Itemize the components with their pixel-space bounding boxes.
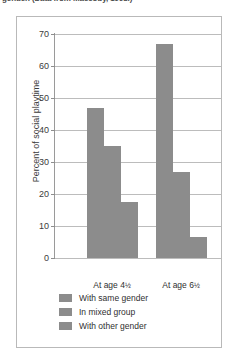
plot-area: 706050403020100At age 4½At age 6½ [55,34,221,258]
y-axis-tick-mark [51,130,55,131]
y-axis-tick-label: 50 [9,93,49,103]
legend-swatch [59,294,72,302]
y-axis-tick-mark [51,194,55,195]
gridline [55,34,221,35]
figure-caption-sliver: gender. (Data from Maccoby, 1998.) [0,0,238,5]
bar-at-age-4--series-3 [121,202,138,258]
chart-plot-region: Percent of social playtime 7060504030201… [17,17,223,275]
y-axis-tick-label: 10 [9,221,49,231]
bar-at-age-4--series-1 [87,108,104,258]
y-axis-tick-mark [51,98,55,99]
legend-label: In mixed group [79,307,135,317]
y-axis-tick-label: 40 [9,125,49,135]
legend-swatch [59,322,72,330]
gridline [55,66,221,67]
y-axis-tick-mark [51,34,55,35]
bar-at-age-6--series-2 [173,172,190,258]
legend-item: With other gender [59,319,209,333]
y-axis-tick-mark [51,226,55,227]
gridline [55,162,221,163]
legend-swatch [59,308,72,316]
bar-at-age-6--series-1 [156,44,173,258]
y-axis-tick-label: 60 [9,61,49,71]
y-axis-tick-mark [51,162,55,163]
y-axis-tick-mark [51,258,55,259]
y-axis-tick-label: 20 [9,189,49,199]
bar-at-age-6--series-3 [190,237,207,258]
bar-at-age-4--series-2 [104,146,121,258]
legend-item: In mixed group [59,305,209,319]
x-axis-group-label: At age 6½ [141,280,221,290]
legend-item: With same gender [59,291,209,305]
y-axis-tick-label: 0 [9,253,49,263]
gridline [55,226,221,227]
figure-frame: Percent of social playtime 7060504030201… [16,16,222,348]
gridline [55,130,221,131]
figure-caption-text: gender. (Data from Maccoby, 1998.) [2,0,132,3]
y-axis-tick-label: 30 [9,157,49,167]
gridline [55,98,221,99]
y-axis-tick-label: 70 [9,29,49,39]
gridline [55,258,221,259]
legend-label: With other gender [79,321,147,331]
y-axis-tick-mark [51,66,55,67]
x-axis-group-label: At age 4½ [72,280,152,290]
chart-legend: With same genderIn mixed groupWith other… [59,291,209,333]
legend-label: With same gender [79,293,148,303]
gridline [55,194,221,195]
